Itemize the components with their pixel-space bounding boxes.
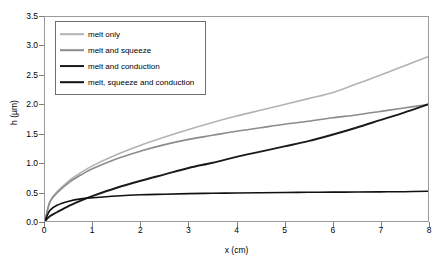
- legend-item-label: melt and squeeze: [88, 46, 151, 55]
- legend-line-swatch-icon: [59, 29, 85, 39]
- legend-item: melt only: [59, 26, 201, 42]
- x-tick-mark: [188, 222, 189, 227]
- x-tick-label: 1: [77, 226, 107, 235]
- series-line: [45, 104, 428, 221]
- x-tick-label: 0: [29, 226, 59, 235]
- legend-item: melt and squeeze: [59, 42, 201, 58]
- legend: melt onlymelt and squeezemelt and conduc…: [55, 21, 206, 95]
- x-tick-mark: [140, 222, 141, 227]
- legend-item-label: melt and conduction: [88, 62, 160, 71]
- y-tick-label: 2.0: [0, 100, 38, 109]
- y-tick-label: 3.5: [0, 12, 38, 21]
- series-line: [45, 104, 428, 221]
- x-tick-mark: [285, 222, 286, 227]
- x-tick-mark: [429, 222, 430, 227]
- x-tick-label: 8: [414, 226, 444, 235]
- legend-item: melt, squeeze and conduction: [59, 74, 201, 90]
- y-tick-label: 1.0: [0, 159, 38, 168]
- y-tick-label: 2.5: [0, 70, 38, 79]
- legend-item-label: melt only: [88, 30, 120, 39]
- x-tick-mark: [92, 222, 93, 227]
- x-tick-label: 5: [270, 226, 300, 235]
- x-tick-mark: [381, 222, 382, 227]
- legend-item: melt and conduction: [59, 58, 201, 74]
- y-axis-label: h (µm): [10, 83, 19, 143]
- x-tick-label: 4: [222, 226, 252, 235]
- x-tick-mark: [237, 222, 238, 227]
- legend-line-swatch-icon: [59, 61, 85, 71]
- y-tick-label: 0.5: [0, 188, 38, 197]
- line-chart: 0.00.51.01.52.02.53.03.5 012345678 h (µm…: [0, 0, 448, 272]
- x-tick-label: 2: [125, 226, 155, 235]
- legend-item-label: melt, squeeze and conduction: [88, 78, 194, 87]
- x-tick-mark: [44, 222, 45, 227]
- series-line: [45, 191, 428, 221]
- legend-line-swatch-icon: [59, 45, 85, 55]
- x-tick-label: 7: [366, 226, 396, 235]
- y-tick-label: 3.0: [0, 41, 38, 50]
- y-tick-label: 1.5: [0, 129, 38, 138]
- x-tick-label: 3: [173, 226, 203, 235]
- x-axis-label: x (cm): [44, 245, 429, 255]
- x-tick-label: 6: [318, 226, 348, 235]
- legend-line-swatch-icon: [59, 77, 85, 87]
- x-tick-mark: [333, 222, 334, 227]
